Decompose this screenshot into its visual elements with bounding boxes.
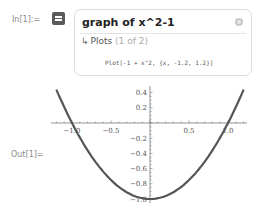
y-tick-label: −0.6 [130, 165, 148, 173]
x-tick-label: −0.5 [103, 127, 120, 135]
x-tick-label: 0.5 [183, 127, 194, 135]
y-tick-label: −0.4 [130, 150, 148, 158]
y-tick-label: −0.8 [130, 180, 147, 188]
y-tick-label: −0.2 [130, 135, 147, 143]
plot: −1.0−0.50.51.0 0.40.2−0.2−0.4−0.6−0.8−1.… [0, 0, 262, 212]
y-tick-label: 0.4 [136, 89, 148, 97]
y-tick-label: 0.2 [136, 104, 147, 112]
